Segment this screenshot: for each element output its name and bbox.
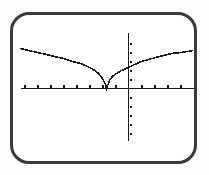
x-axis-tick (141, 85, 143, 87)
y-axis-tick (130, 124, 132, 126)
function-curve (21, 49, 194, 89)
x-axis-tick (102, 85, 104, 87)
y-axis-tick (130, 133, 132, 135)
y-axis-tick (130, 79, 132, 81)
y-axis-tick (130, 97, 132, 99)
calculator-graph-screenshot (0, 0, 209, 175)
y-axis-tick (130, 106, 132, 108)
x-axis-tick (115, 85, 117, 87)
y-axis-tick (130, 70, 132, 72)
x-axis-tick (63, 85, 65, 87)
y-axis-tick (130, 115, 132, 117)
y-axis-tick (130, 52, 132, 54)
x-axis-tick (37, 85, 39, 87)
x-axis-tick (180, 85, 182, 87)
x-axis-tick (167, 85, 169, 87)
x-axis-tick (154, 85, 156, 87)
y-axis-tick (130, 43, 132, 45)
function-plot (0, 0, 209, 175)
x-axis-tick (76, 85, 78, 87)
x-axis-tick (24, 85, 26, 87)
y-axis-tick (130, 61, 132, 63)
x-axis-tick (50, 85, 52, 87)
x-axis-tick (89, 85, 91, 87)
